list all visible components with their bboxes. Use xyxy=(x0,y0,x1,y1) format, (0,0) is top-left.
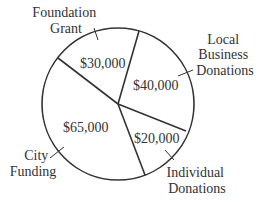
label-line: Business xyxy=(198,47,248,62)
slice-value-city: $65,000 xyxy=(63,120,109,135)
label-line: Local xyxy=(207,32,239,47)
label-line: Donations xyxy=(196,63,254,78)
label-line: Funding xyxy=(10,164,57,179)
label-city-funding: City Funding xyxy=(10,148,57,179)
slice-value-foundation: $30,000 xyxy=(80,56,126,71)
label-line: Donations xyxy=(168,181,226,196)
pie-chart: $30,000 $40,000 $20,000 $65,000 Foundati… xyxy=(0,0,263,202)
label-line: Individual xyxy=(166,165,224,180)
label-individual-donations: Individual Donations xyxy=(166,165,227,196)
label-line: City xyxy=(24,148,48,163)
label-foundation-grant: Foundation Grant xyxy=(32,5,99,36)
label-line: Foundation xyxy=(32,5,96,20)
label-local-business-donations: Local Business Donations xyxy=(196,32,254,78)
slice-value-individual: $20,000 xyxy=(134,131,180,146)
slice-value-local-business: $40,000 xyxy=(133,78,179,93)
label-line: Grant xyxy=(50,21,82,36)
